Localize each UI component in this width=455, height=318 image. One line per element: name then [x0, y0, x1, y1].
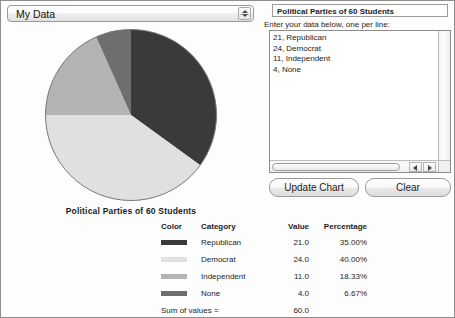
- pie-chart[interactable]: [44, 28, 218, 202]
- stepper-up-arrow-icon[interactable]: [242, 10, 248, 13]
- chart-title-input[interactable]: Political Parties of 60 Students: [272, 4, 448, 17]
- scroll-right-button[interactable]: [423, 162, 436, 172]
- update-chart-button[interactable]: Update Chart: [269, 178, 359, 197]
- clear-button[interactable]: Clear: [365, 178, 451, 197]
- data-set-selector-label: My Data: [16, 8, 55, 21]
- data-textarea-value: 21, Republican 24, Democrat 11, Independ…: [273, 33, 433, 75]
- stepper-down-arrow-icon[interactable]: [242, 14, 248, 17]
- pie-chart-app-window: My Data Political Parties of 60 Students…: [0, 0, 455, 318]
- legend-color-swatch-cell: [161, 289, 201, 306]
- editor-pane: Political Parties of 60 Students Enter y…: [261, 1, 455, 317]
- pie-chart-svg: [44, 28, 218, 202]
- scroll-left-arrow-icon: [413, 165, 417, 171]
- data-entry-hint: Enter your data below, one per line:: [264, 20, 390, 29]
- legend-color-swatch-icon: [161, 240, 187, 245]
- scroll-right-arrow-icon: [428, 165, 432, 171]
- legend-header-color: Color: [161, 222, 201, 238]
- horizontal-scrollbar-arrows[interactable]: [409, 162, 437, 172]
- legend-color-swatch-icon: [161, 291, 187, 296]
- legend-sum-label: Sum of values =: [161, 306, 271, 318]
- textarea-vertical-scrollbar[interactable]: [438, 31, 450, 160]
- scroll-left-button[interactable]: [409, 162, 422, 172]
- legend-color-swatch-icon: [161, 274, 187, 279]
- legend-color-swatch-icon: [161, 257, 187, 262]
- scrollbar-corner: [438, 160, 450, 172]
- chart-title-input-value: Political Parties of 60 Students: [277, 6, 394, 17]
- data-set-stepper[interactable]: [238, 7, 251, 20]
- data-set-selector[interactable]: My Data: [7, 5, 254, 22]
- legend-color-swatch-cell: [161, 238, 201, 255]
- legend-color-swatch-cell: [161, 272, 201, 289]
- chart-caption: Political Parties of 60 Students: [1, 206, 261, 216]
- data-textarea[interactable]: 21, Republican 24, Democrat 11, Independ…: [269, 30, 451, 173]
- legend-color-swatch-cell: [161, 255, 201, 272]
- textarea-horizontal-scrollbar[interactable]: [270, 160, 438, 172]
- horizontal-scrollbar-thumb[interactable]: [272, 163, 400, 171]
